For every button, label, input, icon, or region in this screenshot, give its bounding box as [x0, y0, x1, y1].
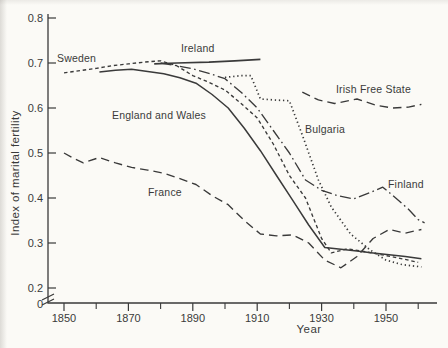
x-tick-label-1870: 1870: [116, 312, 140, 324]
y-tick-label-0.3: 0.3: [28, 237, 43, 249]
x-tick-label-1910: 1910: [245, 312, 269, 324]
y-tick-label-0.4: 0.4: [28, 192, 43, 204]
x-tick-label-1950: 1950: [374, 312, 398, 324]
series-label-finland: Finland: [388, 178, 424, 190]
x-tick-label-1890: 1890: [181, 312, 205, 324]
series-label-irish-free-state: Irish Free State: [336, 83, 411, 95]
y-tick-label-0.5: 0.5: [28, 147, 43, 159]
series-label-bulgaria: Bulgaria: [305, 123, 345, 135]
marital-fertility-line-chart: 0.80.70.60.50.40.30.20185018701890191019…: [0, 0, 448, 348]
y-tick-label-0.2: 0.2: [28, 282, 43, 294]
x-tick-label-1850: 1850: [52, 312, 76, 324]
y-axis-title: Index of marital fertility: [9, 110, 21, 235]
y-tick-label-0.8: 0.8: [28, 12, 43, 24]
series-label-sweden: Sweden: [57, 52, 96, 64]
series-label-ireland: Ireland: [181, 42, 215, 54]
series-label-england-and-wales: England and Wales: [112, 109, 206, 121]
y-tick-label-0.7: 0.7: [28, 57, 43, 69]
y-tick-label-0: 0: [37, 298, 43, 310]
x-axis-title: Year: [297, 323, 322, 335]
scanned-figure-page: 0.80.70.60.50.40.30.20185018701890191019…: [0, 0, 448, 348]
y-tick-label-0.6: 0.6: [28, 102, 43, 114]
series-label-france: France: [148, 186, 182, 198]
